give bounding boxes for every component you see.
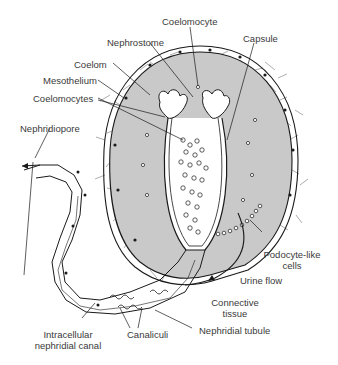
label-coelomocyte: Coelomocyte [162,16,217,27]
label-connective-line1: Connective [211,297,259,308]
diagram-artwork [0,0,338,365]
label-coelom: Coelom [74,59,107,70]
label-connective-tissue: Connective tissue [205,297,265,319]
label-podocyte-like-cells: Podocyte-like cells [262,249,322,271]
canaliculi [110,290,168,309]
label-intracellular-canal: Intracellular nephridial canal [28,329,108,351]
label-mesothelium: Mesothelium [43,75,97,86]
label-capsule: Capsule [243,33,278,44]
nephridium-diagram: Coelomocyte Nephrostome Capsule Coelom M… [0,0,338,365]
label-nephridiopore: Nephridiopore [20,123,80,134]
label-connective-line2: tissue [223,308,248,319]
label-urine-flow: Urine flow [240,275,282,286]
label-nephrostome: Nephrostome [107,37,164,48]
label-intracellular-line1: Intracellular [43,329,92,340]
label-coelomocytes: Coelomocytes [33,93,93,104]
label-canaliculi: Canaliculi [127,329,168,340]
label-podocyte-line2: cells [282,260,301,271]
label-podocyte-line1: Podocyte-like [263,249,320,260]
label-nephridial-tubule: Nephridial tubule [199,325,270,336]
label-intracellular-line2: nephridial canal [35,340,102,351]
